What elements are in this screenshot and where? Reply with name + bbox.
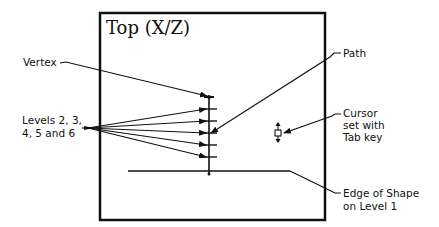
cursor-icon xyxy=(275,123,281,142)
vertex-label: Vertex xyxy=(23,56,57,68)
cursor-label-line1: Cursor xyxy=(343,107,378,119)
edge-label-line1: Edge of Shape xyxy=(343,187,419,199)
diagram-canvas: Top (X/Z) Vertex Levels 2, 3, 4, 5 and 6… xyxy=(0,0,439,227)
edge-end-dot xyxy=(208,173,211,176)
levels-label-line2: 4, 5 and 6 xyxy=(22,127,75,139)
viewport-frame xyxy=(100,13,325,220)
edge-leader xyxy=(290,171,341,193)
cursor-leader xyxy=(284,114,341,133)
edge-label-line2: on Level 1 xyxy=(343,200,397,212)
path-label: Path xyxy=(343,47,366,59)
levels-label-line1: Levels 2, 3, xyxy=(22,114,82,126)
path-leader xyxy=(211,53,341,133)
cursor-label-line3: Tab key xyxy=(342,131,383,143)
cursor-label-line2: set with xyxy=(343,119,385,131)
vertex-leader xyxy=(60,62,207,96)
viewport-title: Top (X/Z) xyxy=(106,17,190,38)
